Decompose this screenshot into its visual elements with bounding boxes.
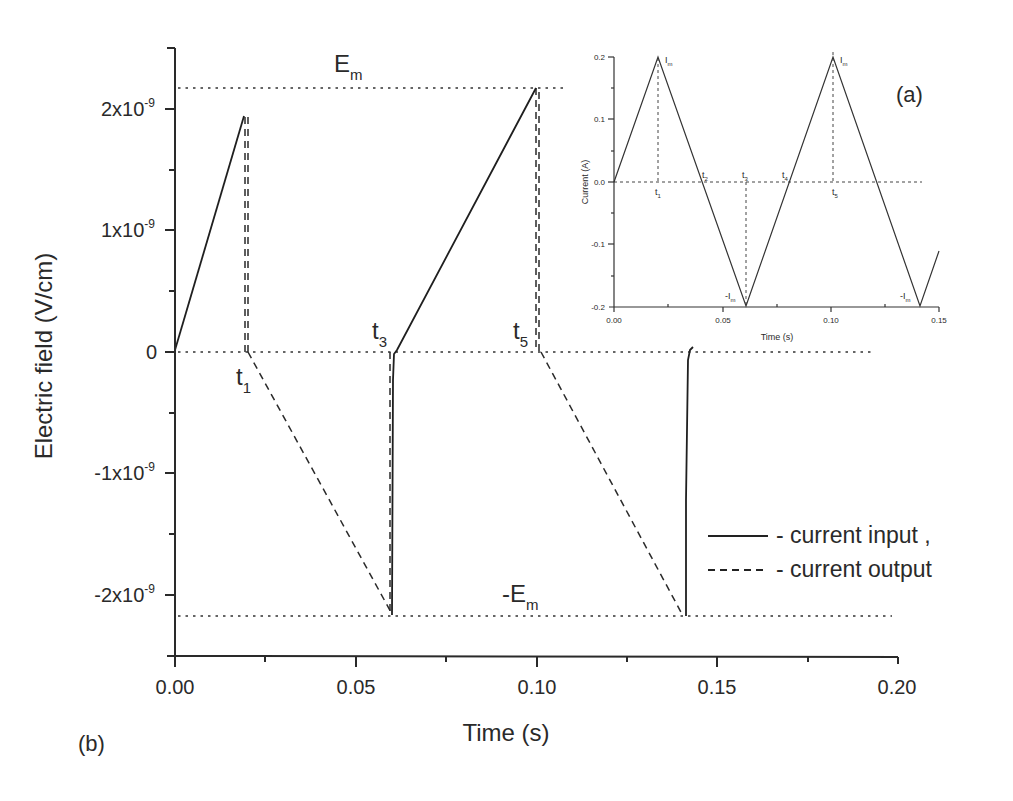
x-tick-label: 0.05 <box>337 676 376 698</box>
y-tick-label: -2x10-9 <box>94 582 155 606</box>
legend-item-current-output: - current output <box>708 556 933 582</box>
y-tick-label: 0 <box>146 341 157 363</box>
inset-y-tick-label: -0.1 <box>591 240 605 249</box>
x-tick-label: 0.10 <box>518 676 557 698</box>
x-axis-title: Time (s) <box>462 719 549 746</box>
x-axis <box>167 656 898 657</box>
inset-x-axis-title: Time (s) <box>761 332 794 342</box>
y-tick-label: -1x10-9 <box>94 460 155 484</box>
figure: 2x10-9 1x10-9 0 -1x10-9 -2x10-9 0.00 0.0… <box>0 0 1013 801</box>
inset-y-tick-label: -0.2 <box>591 303 605 312</box>
t1-label: t1 <box>236 363 251 396</box>
inset-x-tick-label: 0.05 <box>715 316 731 325</box>
t5-label: t5 <box>513 317 528 350</box>
x-tick-label: 0.20 <box>878 676 917 698</box>
inset-x-tick-label: 0.00 <box>606 316 622 325</box>
inset-x-tick-label: 0.10 <box>823 316 839 325</box>
y-tick-label: 1x10-9 <box>101 217 155 241</box>
legend-label: - current output <box>776 556 933 582</box>
panel-label-a: (a) <box>896 82 923 107</box>
inset-x-tick-label: 0.15 <box>931 316 947 325</box>
inset-x-tick-labels: 0.00 0.05 0.10 0.15 <box>606 316 947 325</box>
legend-label: - current input , <box>776 522 931 548</box>
legend-item-current-input: - current input , <box>708 522 931 548</box>
inset-y-axis-title: Current (A) <box>580 160 590 205</box>
x-tick-label: 0.00 <box>156 676 195 698</box>
legend: - current input , - current output <box>708 522 933 582</box>
y-tick-labels: 2x10-9 1x10-9 0 -1x10-9 -2x10-9 <box>94 96 157 606</box>
panel-label-b: (b) <box>78 731 105 756</box>
y-axis-title: Electric field (V/cm) <box>30 253 57 460</box>
t3-label: t3 <box>372 317 387 350</box>
inset-y-tick-label: 0.1 <box>594 115 606 124</box>
inset-chart: 0.2 0.1 0.0 -0.1 -0.2 0.00 0.05 0.10 0.1… <box>580 40 947 342</box>
inset-y-tick-labels: 0.2 0.1 0.0 -0.1 -0.2 <box>591 53 605 312</box>
y-tick-label: 2x10-9 <box>101 96 155 120</box>
inset-y-tick-label: 0.2 <box>594 53 606 62</box>
em-label: Em <box>334 50 363 83</box>
inset-y-tick-label: 0.0 <box>594 178 606 187</box>
neg-em-label: -Em <box>502 580 539 613</box>
main-annotations: Em t1 t3 t5 -Em <box>236 50 539 613</box>
x-tick-label: 0.15 <box>698 676 737 698</box>
x-tick-labels: 0.00 0.05 0.10 0.15 0.20 <box>156 676 917 698</box>
